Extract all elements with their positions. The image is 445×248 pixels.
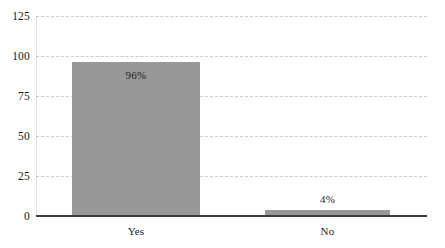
y-tick-label-125: 125	[0, 11, 30, 23]
plot-area: 96% 4%	[36, 16, 427, 216]
y-tick-label-50: 50	[0, 131, 30, 143]
y-tick-label-100: 100	[0, 51, 30, 63]
x-axis-line	[36, 215, 427, 217]
bar-value-yes: 96%	[72, 70, 200, 81]
x-category-label-yes: Yes	[72, 226, 200, 237]
bar-value-no: 4%	[265, 194, 390, 205]
gridline-100	[36, 56, 427, 57]
gridline-125	[36, 16, 427, 17]
y-tick-label-0: 0	[0, 211, 30, 223]
x-category-label-no: No	[265, 226, 390, 237]
bar-yes	[72, 62, 200, 216]
y-tick-label-25: 25	[0, 171, 30, 183]
bar-chart: 125 100 75 50 25 0 96% 4% Yes No	[0, 0, 445, 248]
y-tick-label-75: 75	[0, 91, 30, 103]
